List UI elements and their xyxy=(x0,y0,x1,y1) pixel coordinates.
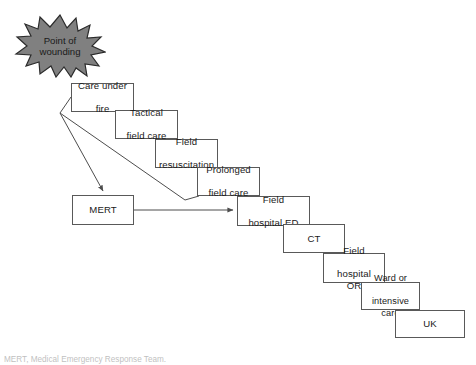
node-ward-or-intensive-care-line1: Ward or xyxy=(365,273,416,285)
node-prolonged-field-care-line1: Prolonged xyxy=(203,164,254,176)
node-uk-label: UK xyxy=(420,318,440,330)
connector-wounding-to-mert xyxy=(60,113,103,191)
node-tactical-field-care-line1: Tactical xyxy=(124,107,170,119)
node-mert-label: MERT xyxy=(86,204,119,216)
node-prolonged-field-care[interactable]: Prolonged field care xyxy=(197,167,260,196)
starburst-icon xyxy=(14,14,106,78)
node-ct-label: CT xyxy=(305,233,324,245)
node-care-under-fire-line1: Care under xyxy=(75,80,130,92)
node-tactical-field-care[interactable]: Tactical field care xyxy=(115,110,178,139)
node-uk[interactable]: UK xyxy=(395,310,465,338)
node-mert[interactable]: MERT xyxy=(72,195,134,225)
node-field-hospital-ed[interactable]: Field hospital ED xyxy=(237,196,310,226)
point-of-wounding-star: Point of wounding xyxy=(14,14,106,78)
node-field-hospital-or-line1: Field xyxy=(327,245,381,257)
node-field-hospital-ed-line1: Field xyxy=(245,194,301,206)
figure-caption: MERT, Medical Emergency Response Team. xyxy=(4,355,166,365)
node-field-resuscitation-line1: Field xyxy=(156,136,217,148)
node-ward-or-intensive-care[interactable]: Ward or intensive care xyxy=(361,282,420,310)
